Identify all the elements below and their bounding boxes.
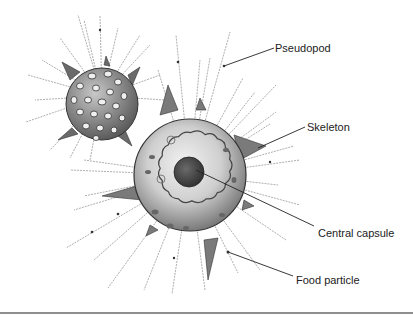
- large-radiolarian: [134, 119, 246, 231]
- small-radiolarian: [66, 68, 138, 141]
- leader-pseudopod: [224, 48, 274, 66]
- diagram-canvas: [0, 0, 413, 317]
- label-central-capsule: Central capsule: [318, 227, 394, 239]
- bottom-divider: [0, 312, 413, 314]
- label-food-particle: Food particle: [296, 274, 360, 286]
- leader-skeleton: [258, 127, 305, 148]
- label-pseudopod: Pseudopod: [275, 42, 331, 54]
- label-skeleton: Skeleton: [307, 121, 350, 133]
- radiolarian-diagram: Pseudopod Skeleton Central capsule Food …: [0, 0, 413, 317]
